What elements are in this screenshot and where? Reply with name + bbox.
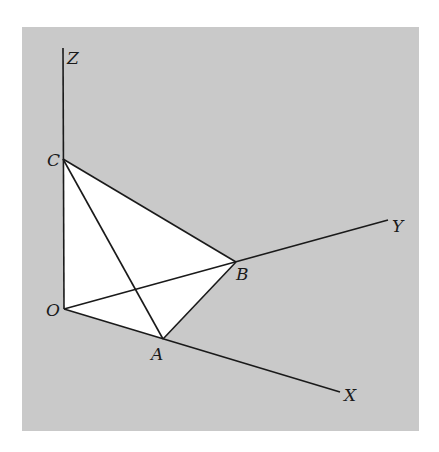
label-y: Y — [392, 216, 405, 236]
label-a: A — [149, 344, 163, 364]
label-b: B — [235, 264, 249, 284]
label-z: Z — [66, 48, 80, 68]
z-axis — [63, 48, 64, 309]
diagram-stage: Z C O A B Y X — [0, 0, 439, 452]
tetrahedron-diagram: Z C O A B Y X — [0, 0, 439, 452]
label-c: C — [47, 150, 60, 170]
label-x: X — [342, 385, 357, 405]
label-o: O — [46, 300, 60, 320]
